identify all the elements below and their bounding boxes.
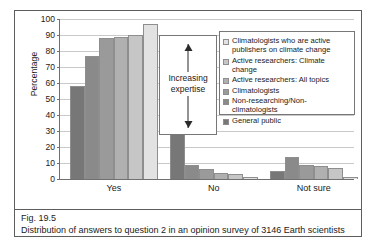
legend-item-label: General public xyxy=(232,116,281,125)
bar xyxy=(99,38,114,179)
bar xyxy=(314,166,329,179)
legend-item: General public xyxy=(223,116,351,125)
chart-legend: Climatologists who are active publishers… xyxy=(219,31,355,115)
bar xyxy=(299,165,314,179)
legend-item: Climatologists xyxy=(223,86,351,95)
legend-item: Active researchers: Climate change xyxy=(223,56,351,74)
y-axis-tick-label: 0 xyxy=(31,175,55,183)
bar xyxy=(114,37,129,179)
y-axis-tick-label: 50 xyxy=(31,95,55,103)
legend-item: Non-researching/Non-climatologists xyxy=(223,96,351,114)
legend-item: Climatologists who are active publishers… xyxy=(223,36,351,54)
y-axis-tick-label: 90 xyxy=(31,31,55,39)
bar xyxy=(143,24,158,179)
y-axis-tick-label: 10 xyxy=(31,159,55,167)
bar xyxy=(214,173,229,179)
legend-item-label: Active researchers: All topics xyxy=(232,75,329,84)
figure-container: Percentage 0102030405060708090100 YesNoN… xyxy=(14,10,362,237)
increasing-expertise-label: Increasing expertise xyxy=(160,72,216,96)
legend-item-label: Climatologists xyxy=(232,86,279,95)
y-axis-tick-label: 40 xyxy=(31,111,55,119)
bar xyxy=(199,169,214,179)
y-axis-tick-label: 20 xyxy=(31,143,55,151)
legend-swatch-icon xyxy=(223,59,229,65)
x-axis-tick-label: Not sure xyxy=(297,183,331,193)
y-axis-tick-label: 70 xyxy=(31,63,55,71)
bar xyxy=(70,86,85,179)
legend-item: Active researchers: All topics xyxy=(223,75,351,84)
x-axis-tick-label: Yes xyxy=(106,183,121,193)
bar xyxy=(270,171,285,179)
bar xyxy=(85,56,100,179)
legend-swatch-icon xyxy=(223,78,229,84)
legend-item-label: Active researchers: Climate change xyxy=(232,56,351,74)
bar xyxy=(185,165,200,179)
figure-caption: Fig. 19.5 Distribution of answers to que… xyxy=(15,209,361,236)
bar xyxy=(243,177,258,179)
bar-cluster xyxy=(70,19,158,179)
bar xyxy=(228,174,243,179)
legend-swatch-icon xyxy=(223,89,229,95)
legend-item-label: Non-researching/Non-climatologists xyxy=(232,96,351,114)
bar xyxy=(328,168,343,179)
x-axis-tick-label: No xyxy=(208,183,220,193)
legend-swatch-icon xyxy=(223,39,229,45)
figure-number: Fig. 19.5 xyxy=(21,213,355,224)
bar xyxy=(343,177,358,179)
legend-swatch-icon xyxy=(223,119,229,125)
legend-swatch-icon xyxy=(223,99,229,105)
bar xyxy=(128,35,143,179)
increasing-expertise-annotation: Increasing expertise xyxy=(159,35,217,135)
y-axis-tick-label: 100 xyxy=(31,15,55,23)
y-axis-tickmark xyxy=(57,179,60,180)
x-axis-tick-labels: YesNoNot sure xyxy=(60,183,353,197)
y-axis-tick-label: 60 xyxy=(31,79,55,87)
legend-item-label: Climatologists who are active publishers… xyxy=(232,36,330,54)
y-axis-tick-label: 80 xyxy=(31,47,55,55)
y-axis-tick-labels: 0102030405060708090100 xyxy=(29,19,55,179)
figure-caption-text: Distribution of answers to question 2 in… xyxy=(21,224,355,236)
bar xyxy=(285,157,300,179)
y-axis-tick-label: 30 xyxy=(31,127,55,135)
chart-plot-area: Percentage 0102030405060708090100 YesNoN… xyxy=(15,11,363,196)
